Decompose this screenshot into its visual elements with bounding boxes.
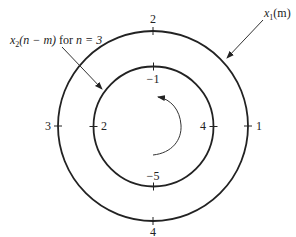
outer-value-top: 2 (150, 12, 156, 26)
outer-value-right: 1 (256, 119, 262, 133)
inner-value-bottom: −5 (147, 169, 160, 183)
outer-circle (58, 31, 248, 221)
rotation-arrow-icon (153, 97, 181, 155)
outer-value-bottom: 4 (150, 225, 156, 237)
inner-value-right: 4 (200, 119, 206, 133)
outer-value-left: 3 (45, 119, 51, 133)
outer-label-pointer (227, 20, 263, 58)
outer-circle-label: x1(m) (263, 6, 291, 22)
inner-circle-label: x2(n − m) for n = 3 (9, 33, 102, 49)
inner-value-left: 2 (101, 119, 107, 133)
inner-value-top: −1 (147, 72, 160, 86)
outer-ticks (54, 27, 252, 225)
circular-convolution-diagram: 2 1 4 3 −1 4 −5 2 x1(m) x2(n − m) for n … (0, 0, 296, 237)
